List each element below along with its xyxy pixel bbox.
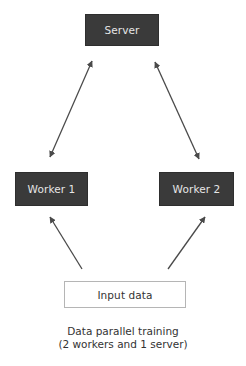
worker-2-label: Worker 2 <box>173 183 221 195</box>
input-data-label: Input data <box>97 289 152 301</box>
caption-title: Data parallel training <box>0 325 246 338</box>
worker-2-node: Worker 2 <box>159 172 234 206</box>
worker-1-node: Worker 1 <box>15 172 88 206</box>
worker-1-label: Worker 1 <box>28 183 76 195</box>
arrow-server-worker2 <box>155 62 199 159</box>
arrow-input-worker1 <box>50 217 82 269</box>
server-node: Server <box>85 14 159 46</box>
server-label: Server <box>104 24 139 36</box>
arrow-server-worker1 <box>50 61 92 157</box>
caption-subtitle: (2 workers and 1 server) <box>0 338 246 351</box>
input-data-node: Input data <box>64 281 186 308</box>
arrow-input-worker2 <box>168 217 205 269</box>
